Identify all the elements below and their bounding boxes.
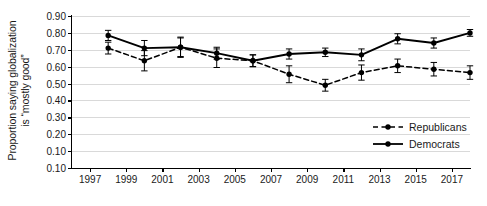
- x-axis-tick-mark: [235, 168, 236, 172]
- x-axis-tick-mark: [343, 168, 344, 172]
- x-axis-tick-mark: [380, 168, 381, 172]
- x-axis-tick-label: 1999: [115, 174, 137, 185]
- data-point-marker: [105, 33, 110, 38]
- data-point-marker: [323, 83, 328, 88]
- data-point-marker: [286, 72, 291, 77]
- x-axis-tick-mark: [271, 168, 272, 172]
- legend-swatch-solid-line-icon: [372, 138, 404, 150]
- data-point-marker: [105, 45, 110, 50]
- y-axis-tick-label: 0.40: [47, 95, 66, 106]
- y-axis-tick-label: 0.70: [47, 44, 66, 55]
- x-axis-tick-mark: [199, 168, 200, 172]
- y-axis-title-line-1: Proportion saying globalization: [7, 20, 19, 160]
- data-point-marker: [359, 70, 364, 75]
- x-axis-tick-label: 2003: [188, 174, 210, 185]
- x-axis-tick-label: 2015: [405, 174, 427, 185]
- series-democrats: [105, 30, 473, 67]
- data-point-marker: [395, 36, 400, 41]
- x-axis-tick-mark: [452, 168, 453, 172]
- data-point-marker: [467, 70, 472, 75]
- y-axis-tick-label: 0.10: [47, 146, 66, 157]
- legend-label-democrats: Democrats: [409, 138, 460, 150]
- data-point-marker: [178, 45, 183, 50]
- x-axis-tick-mark: [126, 168, 127, 172]
- y-axis-tick-mark: [68, 168, 72, 169]
- legend-label-republicans: Republicans: [409, 121, 467, 133]
- data-point-marker: [142, 58, 147, 63]
- legend-item-republicans: Republicans: [372, 118, 484, 135]
- x-axis-tick-label: 2011: [333, 174, 355, 185]
- data-point-marker: [359, 52, 364, 57]
- y-axis-tick-label: 0.30: [47, 112, 66, 123]
- y-axis-tick-label: 0.50: [47, 78, 66, 89]
- x-axis-tick-label: 2017: [441, 174, 463, 185]
- y-axis-tick-label: 0.10: [47, 163, 66, 174]
- data-point-marker: [214, 50, 219, 55]
- x-axis-tick-label: 2005: [224, 174, 246, 185]
- y-axis-title-line-2: is “mostly good”: [19, 20, 32, 160]
- x-axis-tick-label: 2001: [151, 174, 173, 185]
- y-axis-tick-label: 0.20: [47, 129, 66, 140]
- legend: Republicans Democrats: [372, 118, 484, 152]
- line-chart: Proportion saying globalization is “most…: [0, 0, 487, 206]
- y-axis-tick-label: 0.80: [47, 27, 66, 38]
- x-axis-tick-label: 1997: [79, 174, 101, 185]
- data-point-marker: [286, 51, 291, 56]
- x-axis-tick-label: 2009: [296, 174, 318, 185]
- y-axis-title: Proportion saying globalization is “most…: [0, 0, 38, 180]
- data-point-marker: [395, 63, 400, 68]
- data-point-marker: [142, 45, 147, 50]
- data-point-marker: [431, 67, 436, 72]
- data-point-marker: [250, 58, 255, 63]
- data-point-marker: [431, 40, 436, 45]
- series-republicans: [105, 37, 473, 91]
- data-point-marker: [323, 50, 328, 55]
- legend-swatch-dashed-line-icon: [372, 121, 404, 133]
- x-axis-tick-label: 2013: [368, 174, 390, 185]
- x-axis-tick-mark: [307, 168, 308, 172]
- x-axis-tick-mark: [90, 168, 91, 172]
- x-axis-tick-mark: [416, 168, 417, 172]
- data-point-marker: [467, 30, 472, 35]
- y-axis-tick-label: 0.60: [47, 61, 66, 72]
- x-axis-tick-mark: [162, 168, 163, 172]
- y-axis-tick-label: 0.90: [47, 11, 66, 22]
- x-axis-tick-label: 2007: [260, 174, 282, 185]
- legend-item-democrats: Democrats: [372, 135, 484, 152]
